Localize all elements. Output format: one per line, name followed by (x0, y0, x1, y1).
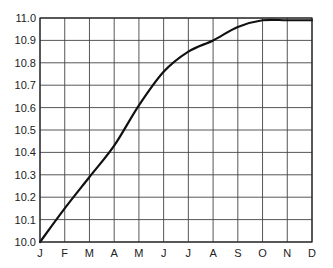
y-tick-label: 10.4 (15, 146, 36, 158)
y-tick-label: 10.2 (15, 191, 36, 203)
y-tick-label: 10.9 (15, 34, 36, 46)
x-tick-label: J (186, 247, 192, 259)
y-tick-label: 10.1 (15, 214, 36, 226)
x-tick-label: S (234, 247, 241, 259)
y-tick-label: 10.3 (15, 169, 36, 181)
x-tick-label: M (134, 247, 143, 259)
x-tick-label: A (111, 247, 119, 259)
x-axis-labels: JFMAMJJASOND (37, 247, 316, 259)
x-tick-label: O (258, 247, 267, 259)
y-tick-label: 10.0 (15, 236, 36, 248)
x-tick-label: M (85, 247, 94, 259)
y-tick-label: 10.6 (15, 102, 36, 114)
x-tick-label: D (308, 247, 316, 259)
x-tick-label: J (161, 247, 167, 259)
y-tick-label: 10.8 (15, 57, 36, 69)
x-tick-label: A (209, 247, 217, 259)
x-tick-label: J (37, 247, 43, 259)
y-tick-label: 10.5 (15, 124, 36, 136)
grid-lines (40, 18, 312, 242)
x-tick-label: F (61, 247, 68, 259)
data-line (40, 20, 312, 242)
y-tick-label: 11.0 (15, 12, 36, 24)
y-axis-labels: 10.010.110.210.310.410.510.610.710.810.9… (15, 12, 36, 248)
x-tick-label: N (283, 247, 291, 259)
y-tick-label: 10.7 (15, 79, 36, 91)
line-chart: 10.010.110.210.310.410.510.610.710.810.9… (0, 0, 333, 268)
